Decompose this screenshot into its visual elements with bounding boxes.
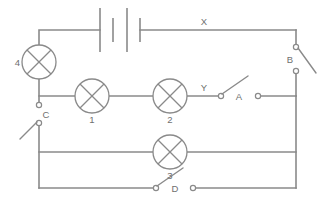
switch-b-terminal-bottom[interactable]: [293, 68, 298, 73]
battery: [100, 8, 140, 52]
switch-d-terminal-right[interactable]: [190, 185, 195, 190]
circuit-canvas: 1 2 3 4 A B C D X Y: [0, 0, 323, 208]
switch-c-label: C: [43, 109, 50, 120]
wire-lamp4-to-middle-rail: [39, 79, 75, 96]
circuit-diagram: 1 2 3 4 A B C D X Y: [0, 0, 323, 208]
lamp-3: [153, 135, 187, 169]
switch-b-blade[interactable]: [298, 48, 316, 73]
switch-b[interactable]: [293, 44, 316, 73]
switch-b-label: B: [287, 54, 293, 65]
lamp-3-label: 3: [167, 170, 172, 181]
lamp-2-label: 2: [167, 114, 172, 125]
node-x-label: X: [201, 16, 208, 27]
node-y-label: Y: [201, 82, 208, 93]
switch-a-terminal-right[interactable]: [255, 93, 260, 98]
lamp-1: [75, 79, 109, 113]
switch-d-label: D: [172, 183, 179, 194]
wire-lamp4-to-top-rail: [39, 30, 100, 45]
lamp-4: [22, 45, 56, 79]
switch-c-terminal-bottom[interactable]: [36, 120, 41, 125]
lamp-4-label: 4: [15, 57, 20, 68]
lamp-2: [153, 79, 187, 113]
lamp-1-label: 1: [89, 114, 94, 125]
switch-c-blade[interactable]: [20, 122, 37, 139]
switch-c-terminal-top[interactable]: [36, 102, 41, 107]
switch-a-label: A: [236, 91, 243, 102]
